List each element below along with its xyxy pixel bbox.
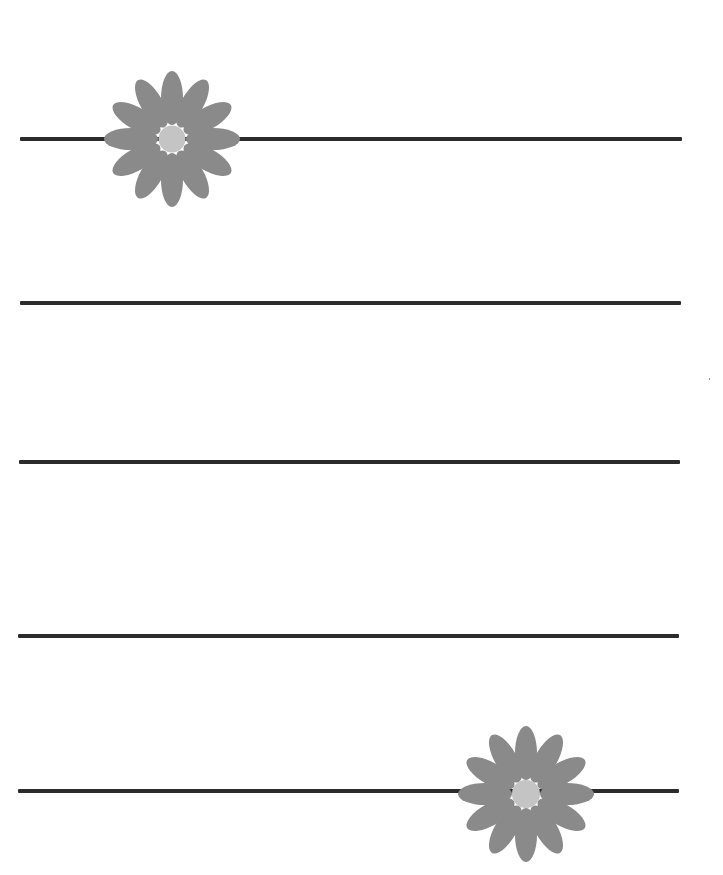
lined-paper-page — [0, 0, 723, 875]
daisy-bottom-right-svg — [456, 724, 596, 864]
daisy-icon — [456, 724, 596, 864]
stray-speck — [709, 378, 710, 380]
ruled-line-2 — [20, 301, 681, 305]
ruled-line-4 — [18, 634, 679, 638]
daisy-top-left-svg — [102, 69, 242, 209]
daisy-icon — [102, 69, 242, 209]
ruled-line-3 — [19, 460, 680, 464]
